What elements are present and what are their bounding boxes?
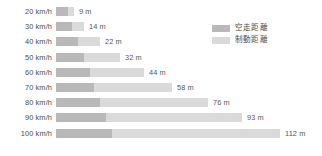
bar-segment-reaction	[56, 22, 72, 31]
stopping-distance-chart: 20 km/h9 m30 km/h14 m40 km/h22 m50 km/h3…	[0, 0, 322, 156]
bar-segment-reaction	[56, 7, 68, 16]
bar-segment-reaction	[56, 68, 90, 77]
bar-segment-reaction	[56, 113, 106, 122]
legend-item: 制動距離	[212, 34, 298, 46]
chart-row: 60 km/h44 m	[0, 67, 322, 78]
stacked-bar	[56, 68, 144, 77]
bar-segment-braking	[106, 113, 242, 122]
bar-segment-braking	[68, 7, 74, 16]
chart-row: 20 km/h9 m	[0, 6, 322, 17]
bar-segment-reaction	[56, 129, 112, 138]
chart-row: 70 km/h58 m	[0, 82, 322, 93]
stacked-bar	[56, 113, 242, 122]
bar-segment-braking	[84, 53, 120, 62]
speed-label: 50 km/h	[0, 52, 52, 63]
stacked-bar	[56, 37, 100, 46]
speed-label: 80 km/h	[0, 97, 52, 108]
chart-row: 100 km/h112 m	[0, 128, 322, 139]
speed-label: 90 km/h	[0, 112, 52, 123]
chart-legend: 空走距離制動距離	[212, 22, 298, 46]
total-distance-label: 112 m	[285, 128, 306, 139]
speed-label: 70 km/h	[0, 82, 52, 93]
legend-swatch-icon	[212, 25, 230, 32]
speed-label: 40 km/h	[0, 36, 52, 47]
speed-label: 30 km/h	[0, 21, 52, 32]
stacked-bar	[56, 7, 74, 16]
bar-segment-braking	[100, 98, 208, 107]
total-distance-label: 22 m	[105, 36, 122, 47]
stacked-bar	[56, 98, 208, 107]
speed-label: 60 km/h	[0, 67, 52, 78]
speed-label: 20 km/h	[0, 6, 52, 17]
total-distance-label: 32 m	[125, 52, 142, 63]
bar-segment-braking	[78, 37, 100, 46]
bar-segment-braking	[72, 22, 84, 31]
total-distance-label: 93 m	[247, 112, 264, 123]
stacked-bar	[56, 22, 84, 31]
bar-segment-braking	[112, 129, 280, 138]
bar-segment-braking	[94, 83, 172, 92]
total-distance-label: 9 m	[79, 6, 92, 17]
total-distance-label: 58 m	[177, 82, 194, 93]
stacked-bar	[56, 129, 280, 138]
total-distance-label: 14 m	[89, 21, 106, 32]
bar-segment-reaction	[56, 37, 78, 46]
chart-row: 50 km/h32 m	[0, 52, 322, 63]
stacked-bar	[56, 53, 120, 62]
legend-item: 空走距離	[212, 22, 298, 34]
legend-label: 制動距離	[235, 34, 268, 46]
bar-segment-reaction	[56, 98, 100, 107]
total-distance-label: 76 m	[213, 97, 230, 108]
legend-swatch-icon	[212, 37, 230, 44]
stacked-bar	[56, 83, 172, 92]
total-distance-label: 44 m	[149, 67, 166, 78]
chart-row: 90 km/h93 m	[0, 112, 322, 123]
speed-label: 100 km/h	[0, 128, 52, 139]
bar-segment-reaction	[56, 53, 84, 62]
chart-row: 80 km/h76 m	[0, 97, 322, 108]
bar-segment-reaction	[56, 83, 94, 92]
legend-label: 空走距離	[235, 22, 268, 34]
bar-segment-braking	[90, 68, 144, 77]
